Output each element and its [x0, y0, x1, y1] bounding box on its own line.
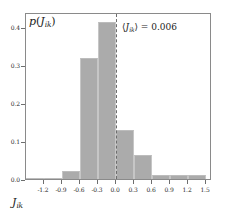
histogram-figure: 0.00.10.20.30.4 -1.2-0.9-0.6-0.30.00.30.… — [0, 0, 233, 220]
x-tick-mark — [169, 180, 170, 184]
x-tick-mark — [61, 180, 62, 184]
annotation-value: 0.006 — [151, 22, 177, 32]
y-tick-label: 0.2 — [2, 100, 20, 107]
x-tick-mark — [43, 180, 44, 184]
plot-area — [25, 13, 211, 180]
mean-value-annotation: ⟨Jik⟩ = 0.006 — [122, 22, 177, 33]
y-tick-label: 0.3 — [2, 62, 20, 69]
x-tick-label: -0.9 — [55, 186, 66, 193]
x-tick-label: 1.5 — [200, 186, 209, 193]
histogram-bar — [98, 22, 116, 180]
x-axis-label: Jik — [12, 196, 23, 210]
x-tick-mark — [97, 180, 98, 184]
x-tick-mark — [205, 180, 206, 184]
x-axis-label-subscript: ik — [16, 201, 23, 210]
x-tick-label: 0.9 — [164, 186, 173, 193]
x-tick-mark — [79, 180, 80, 184]
histogram-bar — [62, 171, 80, 179]
y-tick-label: 0.0 — [2, 176, 20, 183]
x-tick-mark — [187, 180, 188, 184]
x-tick-label: -0.6 — [73, 186, 84, 193]
x-tick-mark — [115, 180, 116, 184]
x-tick-label: 0.0 — [110, 186, 119, 193]
y-tick-mark — [21, 180, 25, 181]
x-tick-label: -1.2 — [37, 186, 48, 193]
x-tick-label: 0.6 — [146, 186, 155, 193]
x-tick-label: -0.3 — [91, 186, 102, 193]
histogram-bar — [116, 130, 134, 179]
histogram-bar — [170, 175, 188, 179]
histogram-bar — [188, 175, 206, 179]
x-tick-mark — [151, 180, 152, 184]
histogram-bar — [80, 58, 98, 179]
y-axis-label: p(Jik) — [29, 15, 56, 29]
histogram-bar — [152, 175, 170, 179]
bars-layer — [26, 14, 210, 179]
y-tick-label: 0.4 — [2, 24, 20, 31]
y-axis-label-func: p — [29, 15, 36, 28]
histogram-bar — [134, 155, 152, 179]
x-tick-label: 0.3 — [128, 186, 137, 193]
y-axis-label-close-paren: ) — [51, 15, 55, 28]
x-tick-label: 1.2 — [182, 186, 191, 193]
zero-reference-line — [116, 14, 117, 179]
y-tick-label: 0.1 — [2, 138, 20, 145]
x-tick-mark — [133, 180, 134, 184]
histogram-bar — [26, 178, 44, 179]
histogram-bar — [44, 178, 62, 179]
